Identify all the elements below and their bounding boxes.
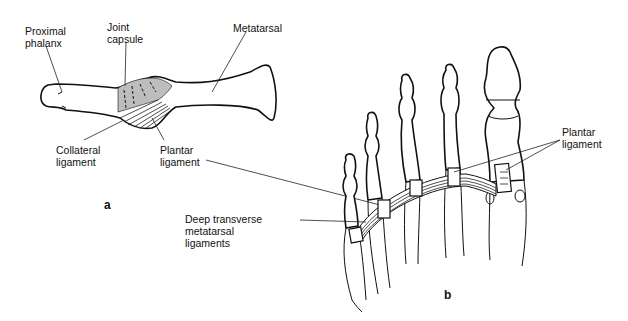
label-joint-capsule: Joint capsule — [107, 21, 143, 45]
label-metatarsal: Metatarsal — [233, 22, 282, 34]
label-plantar-ligament-b: Plantar ligament — [562, 126, 602, 150]
label-collateral-ligament: Collateral ligament — [56, 144, 100, 168]
panel-label-a: a — [104, 198, 111, 212]
panel-label-b: b — [444, 288, 451, 302]
anatomy-figure: Proximal phalanx Joint capsule Metatarsa… — [0, 0, 628, 321]
panel-b-forefoot — [300, 47, 560, 312]
panel-a-joint — [41, 32, 276, 140]
label-plantar-ligament-a: Plantar ligament — [160, 144, 200, 168]
label-deep-transverse-metatarsal-ligaments: Deep transverse metatarsal ligaments — [185, 213, 262, 249]
label-proximal-phalanx: Proximal phalanx — [25, 25, 66, 49]
